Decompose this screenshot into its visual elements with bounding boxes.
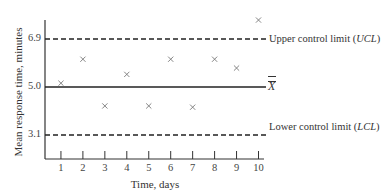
x-tick-label: 8 (205, 162, 225, 173)
data-point-marker (234, 65, 239, 70)
x-axis-title: Time, days (131, 178, 180, 190)
data-point-marker (102, 103, 107, 108)
data-markers (58, 17, 261, 109)
x-tick-label: 5 (139, 162, 159, 173)
data-point-marker (168, 57, 173, 62)
x-tick-label: 6 (161, 162, 181, 173)
data-point-marker (212, 57, 217, 62)
ucl-label: Upper control limit (UCL) (269, 33, 380, 44)
data-point-marker (124, 72, 129, 77)
x-axis-ticks (61, 151, 259, 159)
x-tick-label: 3 (95, 162, 115, 173)
y-axis-title: Mean response time, minutes (12, 28, 24, 157)
double-bar (268, 76, 276, 82)
x-tick-label: 7 (183, 162, 203, 173)
data-point-marker (190, 105, 195, 110)
data-point-marker (146, 103, 151, 108)
x-tick-label: 9 (227, 162, 247, 173)
x-tick-label: 1 (51, 162, 71, 173)
x-tick-label: 10 (249, 162, 269, 173)
data-point-marker (80, 57, 85, 62)
x-tick-label: 4 (117, 162, 137, 173)
x-tick-label: 2 (73, 162, 93, 173)
lcl-label: Lower control limit (LCL) (269, 121, 380, 132)
data-point-marker (58, 81, 63, 86)
grand-mean-label: X (268, 79, 275, 94)
data-point-marker (256, 17, 261, 22)
